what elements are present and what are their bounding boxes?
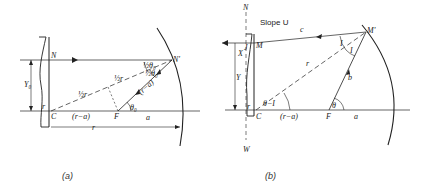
label-c-b: c <box>300 25 304 34</box>
label-a-b: a <box>354 112 358 121</box>
label-b-b: b <box>348 73 352 82</box>
ray-c-b <box>254 32 366 43</box>
panel-a: N N' C F Y₀ ½r ½r (r−a) (r−a) a r θ₀ ½θ₀… <box>20 28 200 181</box>
caption-b: (b) <box>265 171 276 181</box>
caption-a: (a) <box>62 171 73 181</box>
label-r-minus-a-b: (r−a) <box>280 112 298 121</box>
label-Y-b: Y <box>236 73 242 82</box>
label-theta-minus-I-b: θ−I <box>263 99 275 108</box>
label-a-a: a <box>146 113 150 122</box>
label-C-b: C <box>256 112 262 121</box>
label-F-b: F <box>325 112 331 121</box>
label-M-prime-b: M' <box>366 26 376 35</box>
label-small-r-a: r <box>42 102 46 111</box>
label-r-minus-a-ray: (r−a) <box>136 78 156 97</box>
label-I1-b: I <box>339 39 343 48</box>
label-half-theta-2-a: ½θ₀ <box>145 69 158 78</box>
label-half-r-1-a: ½r <box>78 90 88 99</box>
label-F-a: F <box>113 112 119 121</box>
label-theta-b: θ <box>332 101 336 110</box>
corrector-plate-a <box>39 37 49 127</box>
label-half-r-2-a: ½r <box>114 74 124 83</box>
label-J-b: J <box>244 43 248 52</box>
label-r-minus-a-axis: (r−a) <box>72 112 90 121</box>
label-r-ray-b: r <box>306 59 310 68</box>
mirror-arc-b <box>362 25 394 145</box>
label-M-b: M <box>255 41 264 50</box>
label-C-a: C <box>51 112 57 121</box>
label-N-a: N <box>50 51 57 60</box>
label-theta0-a: θ₀ <box>130 103 137 112</box>
label-N-b: N <box>242 3 249 12</box>
optics-diagram: N N' C F Y₀ ½r ½r (r−a) (r−a) a r θ₀ ½θ₀… <box>0 0 425 192</box>
label-W-b: W <box>243 145 251 154</box>
label-Y0-a: Y₀ <box>24 80 31 89</box>
label-I2-b: I <box>349 46 353 55</box>
perp-dashed-a <box>108 87 118 111</box>
label-N-prime-a: N' <box>172 55 180 64</box>
label-X-b: X <box>237 49 244 58</box>
panel-b: N W M M' C F Slope U X Y J c b r (r−a) a… <box>222 3 410 181</box>
label-r-a: r <box>92 123 96 132</box>
label-slope-b: Slope U <box>260 18 289 27</box>
mirror-arc-a <box>157 28 183 146</box>
